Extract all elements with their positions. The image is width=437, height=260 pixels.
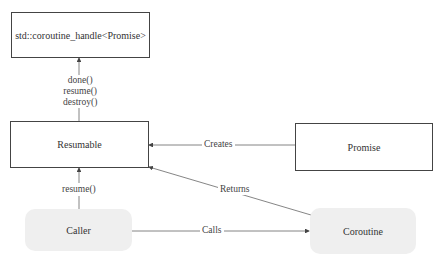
edge-label-handle-methods: done() resume() destroy() (63, 75, 97, 108)
node-coroutine: Coroutine (310, 208, 416, 254)
edge-label-calls: Calls (200, 225, 224, 236)
node-caller-label: Caller (66, 225, 90, 236)
method-resume: resume() (63, 86, 97, 97)
node-resumable-label: Resumable (57, 139, 101, 150)
method-destroy: destroy() (63, 97, 97, 108)
node-coroutine-label: Coroutine (343, 226, 383, 237)
node-promise-label: Promise (348, 142, 381, 153)
node-promise: Promise (295, 123, 433, 171)
method-done: done() (63, 75, 97, 86)
node-resumable: Resumable (10, 121, 149, 168)
edge-label-resume: resume() (61, 183, 97, 196)
node-caller: Caller (25, 209, 132, 251)
node-coroutine-handle: std::coroutine_handle<Promise> (11, 12, 150, 58)
node-coroutine-handle-label: std::coroutine_handle<Promise> (15, 30, 146, 41)
edge-label-returns: Returns (218, 184, 252, 195)
edge-label-creates: Creates (202, 139, 235, 150)
